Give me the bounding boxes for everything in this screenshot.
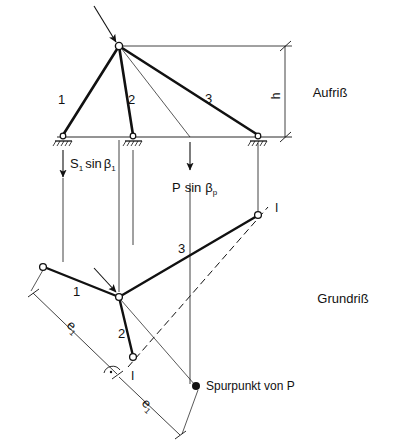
- axis-line-I-I: [128, 207, 268, 367]
- force-label-p-sub: p: [213, 188, 218, 197]
- force-label-p-beta: β: [205, 180, 212, 195]
- axis-label-I-lower: I: [131, 369, 134, 383]
- plan-member-label-3: 3: [178, 241, 185, 256]
- e1-lower-label: e1: [138, 395, 159, 416]
- e1-upper-tick-start: [28, 289, 39, 297]
- apex-load-arrow: [94, 6, 116, 42]
- elevation-member-2: [119, 46, 133, 135]
- elevation-view: 1 2 3 h Aufriß: [53, 6, 347, 146]
- force-label-s1-sin: sin: [85, 156, 102, 171]
- elevation-apex-node: [115, 42, 122, 49]
- force-label-s1-beta: β: [104, 156, 111, 171]
- spurpunkt-label: Spurpunkt von P: [206, 379, 295, 393]
- plan-node-1: [40, 264, 47, 271]
- plan-node-2: [130, 354, 137, 361]
- plan-member-label-1: 1: [73, 284, 80, 299]
- elevation-member-label-3: 3: [205, 91, 212, 106]
- plan-view: Spurpunkt von P 1 2 3 I I e1 e1 Grundriß: [28, 201, 369, 439]
- engineering-diagram: 1 2 3 h Aufriß S1sinβ1 Psinβp: [0, 0, 398, 446]
- plan-node-3: [255, 212, 262, 219]
- elevation-support-right: [248, 133, 267, 146]
- force-label-p-main: P: [172, 180, 181, 195]
- elevation-view-title: Aufriß: [313, 85, 348, 100]
- force-and-projection-lines: S1sinβ1 Psinβp: [63, 140, 258, 384]
- force-label-p: Psinβp: [172, 180, 218, 197]
- elevation-member-label-2: 2: [128, 92, 135, 107]
- plan-member-3: [119, 216, 257, 297]
- elevation-support-middle: [123, 133, 142, 146]
- e1-upper-label: e1: [63, 317, 84, 338]
- force-label-s1: S1sinβ1: [70, 156, 116, 173]
- plan-hub-node: [116, 294, 123, 301]
- e1-lower-closing-line: [182, 390, 198, 434]
- right-angle-marker: [104, 366, 120, 373]
- plan-member-1: [44, 267, 119, 297]
- elevation-member-label-1: 1: [58, 92, 65, 107]
- axis-label-I-upper: I: [275, 201, 278, 215]
- plan-view-title: Grundriß: [317, 291, 368, 306]
- h-dimension-label: h: [269, 93, 283, 100]
- force-label-s1-sub2: 1: [111, 164, 116, 173]
- force-label-s1-main: S: [70, 156, 79, 171]
- elevation-support-left: [53, 133, 72, 146]
- spurpunkt-marker: [192, 382, 200, 390]
- plan-member-label-2: 2: [118, 326, 125, 341]
- force-label-s1-sub1: 1: [79, 164, 84, 173]
- e1-upper-tick-end: [112, 371, 123, 379]
- elevation-member-1: [63, 46, 119, 135]
- elevation-member-3: [119, 46, 258, 135]
- e1-upper-extension-a: [31, 270, 43, 291]
- force-label-p-sin: sin: [185, 180, 202, 195]
